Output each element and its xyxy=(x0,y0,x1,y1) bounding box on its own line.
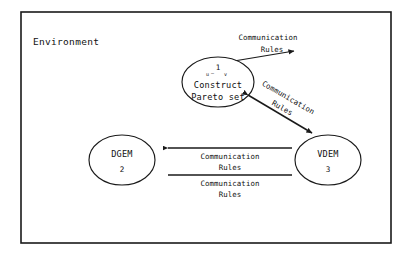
node-construct-pareto-set-sub-left: u xyxy=(206,71,209,77)
edge-dgem-vdem-upper-label-line2: Rules xyxy=(219,163,242,172)
edge-dgem-vdem-lower-label-line1: Communication xyxy=(200,179,259,188)
node-construct-pareto-set-line2: Pareto set xyxy=(191,92,245,102)
node-dgem-name: DGEM xyxy=(111,149,133,159)
node-construct-pareto-set-number: 1 xyxy=(216,63,221,72)
node-construct-pareto-set-line1: Construct xyxy=(194,80,242,90)
node-dgem-number: 2 xyxy=(120,165,125,174)
node-vdem[interactable] xyxy=(295,135,361,185)
node-construct-pareto-set-sub-right: v xyxy=(224,71,227,77)
node-vdem-name: VDEM xyxy=(317,149,339,159)
edge-top-right-label-line2: Rules xyxy=(261,45,284,54)
diagram-canvas: Environment Communication Rules 1 u — v … xyxy=(0,0,414,257)
edge-dgem-vdem-lower-label-line2: Rules xyxy=(219,190,242,199)
node-vdem-number: 3 xyxy=(326,165,331,174)
diagram-svg: Environment Communication Rules 1 u — v … xyxy=(0,0,414,257)
edge-dgem-vdem-upper-label-line1: Communication xyxy=(200,152,259,161)
node-dgem[interactable] xyxy=(89,135,155,185)
environment-frame xyxy=(21,12,391,243)
environment-label: Environment xyxy=(33,36,99,47)
edge-top-right-label-line1: Communication xyxy=(238,33,297,42)
